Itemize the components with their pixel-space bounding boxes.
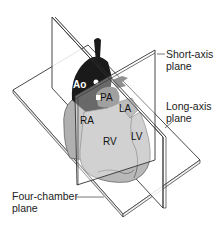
label-ra: RA bbox=[80, 115, 94, 126]
short-axis-label-line1: Short-axis bbox=[166, 48, 213, 60]
long-axis-label-line1: Long-axis bbox=[166, 100, 212, 112]
four-chamber-plane-label: Four-chamber plane bbox=[12, 190, 78, 214]
label-rv: RV bbox=[103, 136, 117, 147]
label-pa: PA bbox=[100, 92, 113, 103]
four-chamber-label-line2: plane bbox=[12, 202, 78, 214]
label-la: LA bbox=[119, 103, 132, 114]
long-axis-plane-label: Long-axis plane bbox=[166, 100, 212, 124]
short-axis-label-line2: plane bbox=[166, 60, 213, 72]
label-ao: Ao bbox=[73, 79, 86, 90]
short-axis-plane-label: Short-axis plane bbox=[166, 48, 213, 72]
four-chamber-label-line1: Four-chamber bbox=[12, 190, 78, 202]
label-lv: LV bbox=[131, 131, 143, 142]
long-axis-label-line2: plane bbox=[166, 112, 212, 124]
